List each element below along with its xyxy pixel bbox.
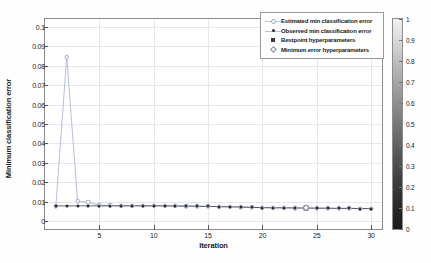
y-tick-mark [44, 202, 48, 203]
legend-label-estimated: Estimated min classification error [281, 18, 372, 24]
x-tick-mark [371, 225, 372, 230]
colorbar-tick-mark [399, 61, 403, 62]
filled-circle-icon [265, 26, 281, 35]
observed-point [163, 204, 166, 207]
y-tick-mark [44, 85, 48, 86]
colorbar-tick-label: 1 [406, 16, 409, 23]
colorbar-tick-mark [399, 208, 403, 209]
observed-point [65, 204, 68, 207]
minimum-error-marker [302, 204, 310, 212]
colorbar-tick-mark [399, 229, 403, 230]
colorbar-tick-label: 0.2 [406, 184, 414, 191]
observed-point [315, 207, 318, 210]
observed-point [87, 204, 90, 207]
observed-point [217, 205, 220, 208]
observed-point [359, 207, 362, 210]
colorbar-tick-label: 0.8 [406, 58, 414, 65]
observed-point [250, 206, 253, 209]
x-tick-mark [154, 225, 155, 230]
x-tick-mark [208, 225, 209, 230]
legend-label-bestpoint: Bestpoint hyperparameters [281, 37, 355, 43]
colorbar-tick-label: 0.1 [406, 205, 414, 212]
observed-point [141, 204, 144, 207]
x-tick-mark [317, 225, 318, 230]
observed-point [120, 204, 123, 207]
colorbar-tick-mark [399, 166, 403, 167]
x-tick-label: 25 [313, 232, 320, 239]
observed-point [109, 204, 112, 207]
colorbar-tick-label: 0.5 [406, 121, 414, 128]
y-tick-mark [44, 163, 48, 164]
observed-point [272, 206, 275, 209]
observed-point [130, 204, 133, 207]
y-tick-mark [44, 221, 48, 222]
colorbar-tick-mark [399, 187, 403, 188]
x-tick-label: 20 [259, 232, 266, 239]
observed-point [98, 204, 101, 207]
x-tick-label: 10 [150, 232, 157, 239]
x-tick-mark [99, 225, 100, 230]
legend-item-observed: Observed min classification error [265, 26, 379, 35]
colorbar-tick-label: 0.3 [406, 163, 414, 170]
colorbar-tick-label: 0.9 [406, 37, 414, 44]
observed-point [228, 205, 231, 208]
colorbar-tick-mark [399, 40, 403, 41]
colorbar-tick-mark [399, 124, 403, 125]
colorbar-tick-label: 0.7 [406, 79, 414, 86]
observed-point [239, 206, 242, 209]
estimated-point [64, 55, 69, 60]
colorbar-tick-label: 0.4 [406, 142, 414, 149]
y-axis-title: Minimum classification error [4, 39, 13, 219]
legend-item-estimated: Estimated min classification error [265, 17, 379, 26]
open-diamond-icon [265, 45, 281, 54]
observed-point [337, 207, 340, 210]
estimated-point [75, 199, 80, 204]
colorbar-tick-mark [399, 19, 403, 20]
observed-point [152, 204, 155, 207]
observed-point [283, 206, 286, 209]
y-tick-mark [44, 66, 48, 67]
observed-point [185, 205, 188, 208]
x-tick-mark [262, 225, 263, 230]
observed-point [348, 207, 351, 210]
observed-point [261, 206, 264, 209]
y-tick-mark [44, 143, 48, 144]
legend-label-minimum-error: Minimum error hyperparameters [281, 47, 369, 53]
colorbar-tick-mark [399, 103, 403, 104]
observed-point [370, 207, 373, 210]
observed-point [76, 204, 79, 207]
colorbar-tick-label: 0 [406, 226, 409, 233]
colorbar-tick-label: 0.6 [406, 100, 414, 107]
chart-figure: 00.010.020.030.040.050.060.070.080.090.1… [0, 0, 431, 263]
x-tick-label: 5 [97, 232, 101, 239]
legend-item-minimum-error: Minimum error hyperparameters [265, 45, 379, 54]
y-tick-mark [44, 105, 48, 106]
legend-item-bestpoint: Bestpoint hyperparameters [265, 36, 379, 45]
filled-square-icon [265, 36, 281, 45]
observed-point [207, 205, 210, 208]
y-tick-mark [44, 124, 48, 125]
observed-point [294, 207, 297, 210]
y-tick-mark [44, 182, 48, 183]
x-axis-title: Iteration [44, 241, 383, 250]
y-tick-mark [44, 46, 48, 47]
observed-point [54, 204, 57, 207]
y-tick-mark [44, 27, 48, 28]
open-circle-icon [265, 17, 281, 26]
observed-point [174, 205, 177, 208]
colorbar-tick-mark [399, 82, 403, 83]
legend-label-observed: Observed min classification error [281, 28, 371, 34]
observed-point [196, 205, 199, 208]
x-tick-label: 30 [367, 232, 374, 239]
x-tick-label: 15 [204, 232, 211, 239]
observed-point [326, 207, 329, 210]
colorbar-tick-mark [399, 145, 403, 146]
legend: Estimated min classification error Obser… [260, 12, 384, 59]
